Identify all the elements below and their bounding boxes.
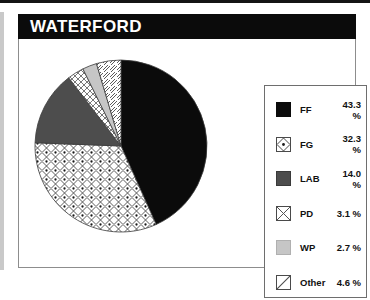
legend-label: WP [300,242,333,253]
pie-chart-svg [33,58,209,234]
plot-area: FF43.3 %FG32.3 %LAB14.0 %PD3.1 %WP2.7 %O… [19,40,355,267]
legend-item-ff[interactable]: FF43.3 % [265,92,368,128]
legend-label: FG [300,139,333,150]
legend-value: 2.7 % [333,242,361,253]
legend-swatch-wp [276,240,291,255]
legend-label: FF [300,104,333,115]
title-bar: WATERFORD [18,14,356,39]
legend-label: LAB [300,173,333,184]
legend-value: 43.3 % [333,99,361,121]
legend-item-lab[interactable]: LAB14.0 % [265,161,368,197]
legend-value: 3.1 % [333,208,361,219]
legend-item-pd[interactable]: PD3.1 % [265,196,368,232]
legend-label: Other [300,277,333,288]
legend-swatch-fg [276,137,291,152]
top-rule [0,0,370,3]
legend-value: 14.0 % [333,168,361,190]
pie-slice-group [35,60,207,232]
page-title: WATERFORD [30,17,142,37]
legend-swatch-pd [276,206,291,221]
legend-item-fg[interactable]: FG32.3 % [265,127,368,163]
legend-swatch-lab [276,171,291,186]
legend-item-other[interactable]: Other4.6 % [265,265,368,300]
legend-swatch-ff [276,102,291,117]
legend-value: 32.3 % [333,133,361,155]
legend-label: PD [300,208,333,219]
legend-item-wp[interactable]: WP2.7 % [265,230,368,266]
legend-value: 4.6 % [333,277,361,288]
legend: FF43.3 %FG32.3 %LAB14.0 %PD3.1 %WP2.7 %O… [264,85,367,298]
legend-swatch-other [276,275,291,290]
left-edge-strip [0,12,4,270]
pie-chart [33,58,209,234]
